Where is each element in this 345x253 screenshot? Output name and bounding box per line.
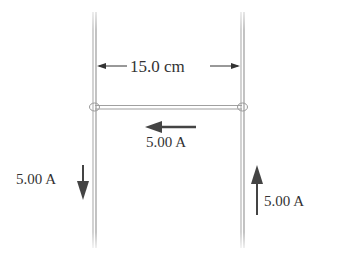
sliding-bar [90, 103, 248, 111]
right-current-arrow-icon [251, 165, 263, 215]
separation-label: 15.0 cm [130, 57, 185, 77]
bar-current-arrow-icon [145, 121, 196, 133]
dimension-arrow-left [97, 63, 127, 69]
bar-current-label: 5.00 A [146, 134, 186, 151]
left-rail [93, 12, 96, 248]
circuit-diagram [0, 0, 345, 253]
left-current-label: 5.00 A [16, 171, 56, 188]
dimension-arrow-right [210, 63, 240, 69]
left-current-arrow-icon [77, 165, 89, 200]
right-rail [241, 12, 244, 248]
right-current-label: 5.00 A [264, 193, 304, 210]
